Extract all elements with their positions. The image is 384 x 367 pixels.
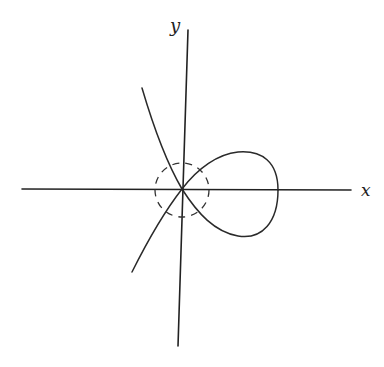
nodal-cubic-diagram: x y [0,0,384,367]
x-axis-label: x [361,180,371,200]
curve-branch-ascending [132,152,278,272]
y-axis-label: y [169,15,181,36]
x-axis [22,189,351,190]
